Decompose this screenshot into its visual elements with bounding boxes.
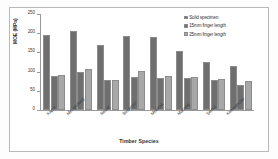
y-tick-label: 150 [28,48,35,54]
legend-item: 25mm finger length [184,32,226,37]
y-tick-mark [37,33,40,34]
bar [123,36,130,110]
bar-group [148,14,175,110]
bar [70,31,77,110]
y-tick-mark [37,52,40,53]
y-tick: 250 [14,14,40,15]
legend-item: Solid specimen [184,15,226,20]
bar [176,51,183,110]
bar [203,62,210,110]
y-tick-label: 100 [28,68,35,74]
y-tick: 0 [14,110,40,111]
y-tick: 150 [14,52,40,53]
x-axis-title: Timber Species [0,138,278,144]
bar [218,79,225,110]
bar-group [94,14,121,110]
bar [85,69,92,110]
x-tick: Mengkulang [68,111,95,137]
legend-swatch-icon [184,32,188,36]
bar [138,71,145,110]
y-tick-mark [37,91,40,92]
x-tick: Resak [94,111,121,137]
bar [245,81,252,110]
bar [58,75,65,110]
bar-group [121,14,148,110]
chart-figure: MOE (MPa) 050100150200250 KapurMengkulan… [0,0,278,159]
legend-label: 25mm finger length [189,32,226,37]
legend-item: 15mm finger length [184,23,226,28]
x-axis-category-labels: KapurMengkulangResakBintangorMelunakMaha… [41,111,254,137]
y-tick-mark [37,110,40,111]
y-tick-label: 200 [28,29,35,35]
y-tick: 50 [14,91,40,92]
legend-swatch-icon [184,24,188,28]
x-tick: Kapur [41,111,68,137]
bar [112,80,119,110]
bar [97,45,104,110]
bar [150,37,157,110]
x-tick: Mahang [174,111,201,137]
bar [191,77,198,110]
bar [165,76,172,110]
y-tick-mark [37,72,40,73]
y-tick: 200 [14,33,40,34]
legend-label: 15mm finger length [189,23,226,28]
chart-legend: Solid specimen15mm finger length25mm fin… [184,15,226,37]
y-tick-mark [37,14,40,15]
legend-label: Solid specimen [189,15,218,20]
y-tick: 100 [14,72,40,73]
bar [43,35,50,110]
y-tick-label: 50 [30,87,35,93]
x-tick: Melunak [148,111,175,137]
bar-group [41,14,68,110]
x-tick: Sentul [201,111,228,137]
x-tick: Kelempayan [227,111,254,137]
legend-swatch-icon [184,16,188,20]
y-axis-title: MOE (MPa) [12,19,18,45]
y-tick-label: 250 [28,10,35,16]
y-tick-label: 0 [33,106,35,112]
x-tick: Bintangor [121,111,148,137]
